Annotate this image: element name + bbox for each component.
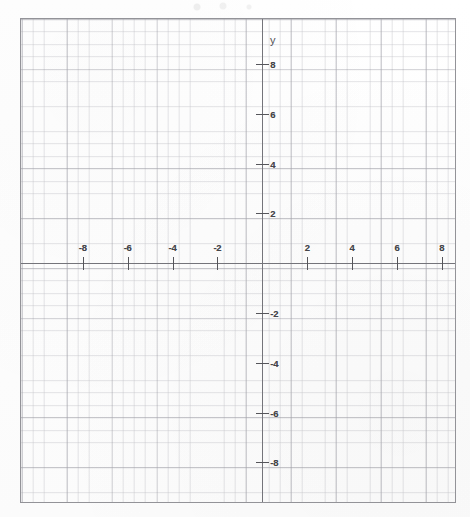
- x-tick-mark: [217, 257, 218, 270]
- x-tick-label: 2: [305, 242, 310, 253]
- x-tick-label: -4: [169, 242, 177, 253]
- x-tick-mark: [128, 257, 129, 270]
- x-tick-mark: [83, 257, 84, 270]
- y-tick-mark: [256, 164, 269, 165]
- y-tick-label: 6: [270, 108, 275, 119]
- y-tick-label: -4: [270, 357, 278, 368]
- y-tick-label: -6: [270, 407, 278, 418]
- major-gridlines: [21, 19, 455, 502]
- plot-frame: -8-6-4-22468 8642-2-4-6-8 y: [20, 18, 456, 503]
- x-axis-line: [21, 263, 456, 264]
- x-tick-label: 6: [394, 242, 399, 253]
- y-tick-mark: [256, 313, 269, 314]
- cropped-content-ghost: [183, 1, 293, 13]
- x-tick-label: -2: [213, 242, 221, 253]
- y-tick-mark: [256, 413, 269, 414]
- x-tick-mark: [307, 257, 308, 270]
- y-tick-label: 8: [270, 59, 275, 70]
- y-tick-mark: [256, 64, 269, 65]
- x-tick-label: 4: [350, 242, 355, 253]
- y-axis-line: [262, 19, 263, 503]
- y-tick-label: 2: [270, 208, 275, 219]
- x-tick-mark: [173, 257, 174, 270]
- x-tick-label: 8: [439, 242, 444, 253]
- x-tick-mark: [442, 257, 443, 270]
- x-tick-mark: [352, 257, 353, 270]
- x-tick-label: -6: [124, 242, 132, 253]
- y-tick-mark: [256, 363, 269, 364]
- y-tick-label: -8: [270, 457, 278, 468]
- graph-paper-page: -8-6-4-22468 8642-2-4-6-8 y: [0, 0, 470, 517]
- y-tick-mark: [256, 114, 269, 115]
- y-tick-mark: [256, 462, 269, 463]
- y-axis-name-label: y: [270, 34, 276, 46]
- x-tick-label: -8: [79, 242, 87, 253]
- y-tick-mark: [256, 213, 269, 214]
- y-tick-label: -2: [270, 308, 278, 319]
- x-tick-mark: [397, 257, 398, 270]
- y-tick-label: 4: [270, 158, 275, 169]
